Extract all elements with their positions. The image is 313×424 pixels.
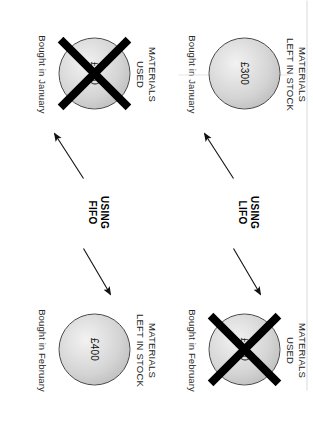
- sphere-group: £300: [56, 37, 130, 111]
- item-label: MATERIALS USED: [134, 8, 157, 140]
- sphere-amount: £300: [208, 37, 280, 109]
- diagram-group-fifo: MATERIALS USED £300 Bought in January MA…: [7, 0, 157, 424]
- item-caption: Bought in February: [35, 284, 47, 416]
- item-caption: Bought in February: [185, 284, 197, 416]
- item-lifo-january: MATERIALS LEFT IN STOCK £300 Bought in J…: [185, 8, 307, 140]
- method-label-fifo: USING FIFO: [86, 175, 109, 249]
- sphere-amount: £400: [208, 313, 280, 385]
- sphere-amount: £300: [58, 37, 130, 109]
- item-fifo-january: MATERIALS USED £300 Bought in January: [35, 8, 157, 140]
- method-label-lifo: USING LIFO: [236, 175, 259, 249]
- diagram-group-lifo: MATERIALS LEFT IN STOCK £300 Bought in J…: [157, 0, 307, 424]
- diagram-viewport: MATERIALS LEFT IN STOCK £300 Bought in J…: [0, 0, 313, 424]
- item-fifo-february: MATERIALS LEFT IN STOCK £400 Bought in F…: [35, 284, 157, 416]
- item-label: MATERIALS USED: [284, 284, 307, 416]
- item-label: MATERIALS LEFT IN STOCK: [134, 284, 157, 416]
- sphere-group: £400: [206, 313, 280, 387]
- diagram-canvas: MATERIALS LEFT IN STOCK £300 Bought in J…: [0, 0, 313, 424]
- sphere-group: £300: [206, 37, 280, 111]
- sphere-amount: £400: [58, 313, 130, 385]
- sphere-group: £400: [56, 313, 130, 387]
- item-caption: Bought in January: [35, 8, 47, 140]
- item-lifo-february: MATERIALS USED £400 Bought in February: [185, 284, 307, 416]
